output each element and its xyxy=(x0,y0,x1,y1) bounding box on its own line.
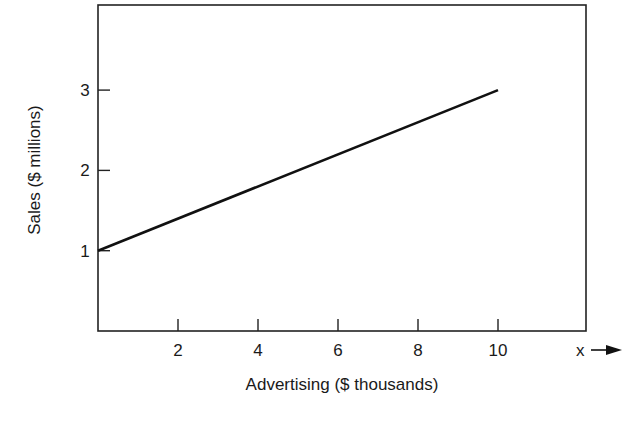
x-tick-label: 10 xyxy=(489,341,508,360)
series xyxy=(98,90,498,251)
x-tick-label: 6 xyxy=(333,341,342,360)
y-axis-label: Sales ($ millions) xyxy=(25,105,44,234)
y-tick-label: 3 xyxy=(80,81,89,100)
y-tick-label: 1 xyxy=(80,242,89,261)
x-tick-label: 2 xyxy=(173,341,182,360)
y-ticks: 123 xyxy=(80,81,110,261)
series-line xyxy=(98,90,498,251)
chart: 246810 123 x Advertising ($ thousands) S… xyxy=(0,0,636,424)
x-axis-symbol: x xyxy=(576,341,585,360)
x-tick-label: 8 xyxy=(413,341,422,360)
x-axis-label: Advertising ($ thousands) xyxy=(246,375,439,394)
plot-frame xyxy=(98,5,586,331)
x-tick-label: 4 xyxy=(253,341,262,360)
x-ticks: 246810 xyxy=(173,319,507,360)
y-tick-label: 2 xyxy=(80,161,89,180)
x-axis-arrow-icon xyxy=(591,345,622,355)
